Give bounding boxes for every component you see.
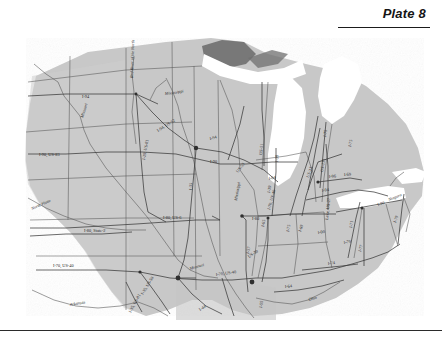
map-label-l21: I-55 bbox=[258, 300, 264, 308]
map-label-l23: I-90 bbox=[210, 159, 217, 164]
map-label-l26: I-39 bbox=[274, 155, 279, 163]
map-graphic: Red River of the NorthMissouriMississipp… bbox=[6, 20, 436, 320]
map-label-l09: I-94 bbox=[82, 94, 90, 99]
map-label-l30: I-80 bbox=[252, 216, 259, 221]
map-label-l41: I-69 bbox=[344, 172, 352, 177]
plate-label: Plate 8 bbox=[383, 6, 426, 21]
map-label-l43: I-75 bbox=[322, 129, 328, 137]
map-label-l13: I-35 bbox=[188, 183, 193, 190]
footer-rule bbox=[0, 330, 442, 331]
map-label-l16: I-70, US-40 bbox=[53, 263, 74, 269]
map-figure: Red River of the NorthMissouriMississipp… bbox=[6, 20, 436, 320]
plate-page: Plate 8 bbox=[0, 0, 442, 347]
land-mass bbox=[25, 38, 424, 320]
